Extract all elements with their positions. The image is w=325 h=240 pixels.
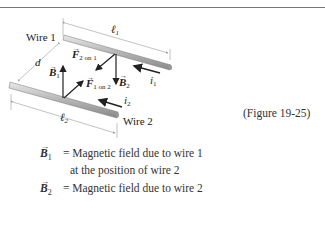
svg-text:B1: B1 <box>48 66 60 80</box>
i1-current-arrow <box>134 66 160 73</box>
l2-label: ℓ2 <box>60 111 69 125</box>
wire-2-label: Wire 2 <box>123 115 153 127</box>
i2-current-arrow <box>99 100 122 107</box>
figure-caption: (Figure 19-25) <box>243 107 310 119</box>
wire-1-label: Wire 1 <box>26 31 56 43</box>
b1-symbol: →B1 <box>40 147 60 164</box>
f1on2-vector-arrow <box>64 81 83 98</box>
i1-label: i1 <box>150 74 157 88</box>
legend-entry-b2: →B2 = Magnetic field due to wire 2 <box>40 182 203 198</box>
svg-text:F2 on 1: F2 on 1 <box>71 48 97 62</box>
svg-text:B2: B2 <box>118 76 130 90</box>
b1-definition: = Magnetic field due to wire 1 <box>63 147 203 159</box>
i2-label: i2 <box>124 94 131 108</box>
d-label: d <box>35 56 41 68</box>
l1-label: ℓ1 <box>111 23 119 37</box>
b1-definition-cont: at the position of wire 2 <box>40 164 203 177</box>
svg-text:F1 on 2: F1 on 2 <box>85 77 111 91</box>
b2-definition: = Magnetic field due to wire 2 <box>63 182 203 194</box>
f2on1-vector-arrow <box>96 54 115 70</box>
b1-label: → B1 <box>48 63 60 80</box>
b2-label: → B2 <box>118 72 130 90</box>
f1on2-label: → F1 on 2 <box>85 74 111 91</box>
legend-entry-b1: →B1 = Magnetic field due to wire 1 at th… <box>40 147 203 177</box>
b2-symbol: →B2 <box>40 182 60 198</box>
